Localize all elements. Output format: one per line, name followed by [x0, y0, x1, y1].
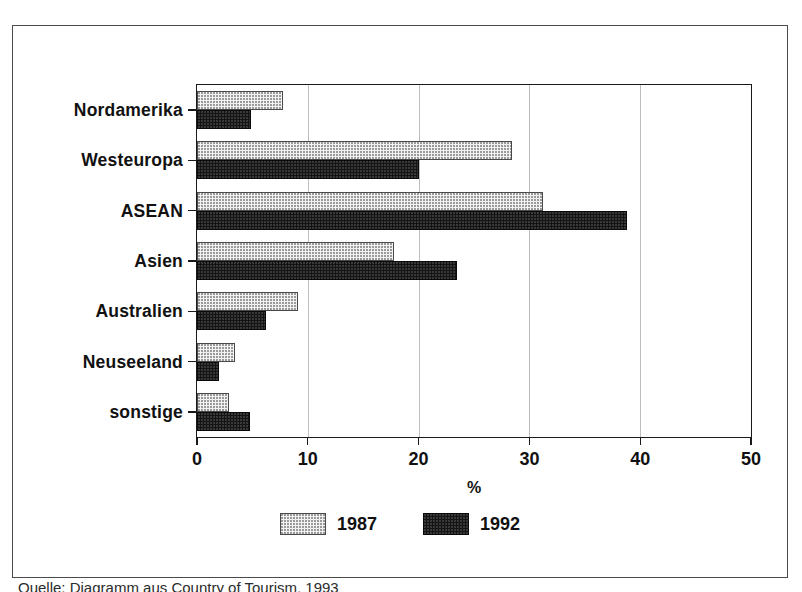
bar-1987-australien [197, 292, 298, 311]
category-tick-sonstige [188, 411, 197, 413]
bar-1987-nordamerika [197, 91, 283, 110]
category-tick-asean [188, 210, 197, 212]
legend-swatch-1987 [280, 513, 326, 535]
bar-1987-sonstige [197, 393, 229, 412]
bar-1987-asien [197, 242, 394, 261]
chart-plot-area: NordamerikaWesteuropaASEANAsienAustralie… [196, 84, 752, 438]
category-label-neuseeland: Neuseeland [83, 351, 183, 372]
legend-entry-1992: 1992 [423, 513, 520, 535]
category-tick-neuseeland [188, 361, 197, 363]
figure-caption: Quelle: Diagramm aus Country of Tourism,… [18, 579, 778, 592]
category-tick-australien [188, 311, 197, 313]
bar-1992-asien [197, 261, 457, 280]
bar-1987-neuseeland [197, 343, 235, 362]
x-tick-50 [750, 437, 751, 445]
legend-swatch-1992 [423, 513, 469, 535]
x-tick-label-20: 20 [409, 449, 429, 470]
bar-1992-neuseeland [197, 362, 219, 381]
x-tick-20 [418, 437, 419, 445]
gridline-30 [529, 85, 530, 437]
legend-label-1992: 1992 [480, 514, 520, 535]
category-tick-westeuropa [188, 160, 197, 162]
category-label-asean: ASEAN [121, 200, 183, 221]
category-tick-asien [188, 260, 197, 262]
bar-1987-westeuropa [197, 141, 512, 160]
category-label-asien: Asien [134, 251, 183, 272]
bar-1987-asean [197, 192, 543, 211]
legend-entry-1987: 1987 [280, 513, 377, 535]
x-tick-40 [640, 437, 641, 445]
category-label-nordamerika: Nordamerika [74, 100, 183, 121]
x-tick-30 [529, 437, 530, 445]
gridline-40 [640, 85, 641, 437]
x-tick-label-50: 50 [741, 449, 761, 470]
figure-frame: NordamerikaWesteuropaASEANAsienAustralie… [12, 25, 788, 578]
chart-legend: 19871992 [13, 513, 787, 535]
legend-label-1987: 1987 [337, 514, 377, 535]
bar-1992-asean [197, 211, 627, 230]
x-tick-0 [196, 437, 197, 445]
category-label-sonstige: sonstige [109, 401, 183, 422]
bar-1992-australien [197, 311, 266, 330]
category-tick-nordamerika [188, 109, 197, 111]
x-tick-label-40: 40 [630, 449, 650, 470]
bar-1992-nordamerika [197, 110, 251, 129]
category-label-westeuropa: Westeuropa [81, 150, 183, 171]
category-label-australien: Australien [95, 301, 183, 322]
x-tick-label-10: 10 [298, 449, 318, 470]
x-tick-label-0: 0 [192, 449, 202, 470]
bar-1992-sonstige [197, 412, 250, 431]
bar-1992-westeuropa [197, 160, 419, 179]
x-tick-10 [307, 437, 308, 445]
x-axis-title: % [467, 479, 481, 497]
x-tick-label-30: 30 [519, 449, 539, 470]
